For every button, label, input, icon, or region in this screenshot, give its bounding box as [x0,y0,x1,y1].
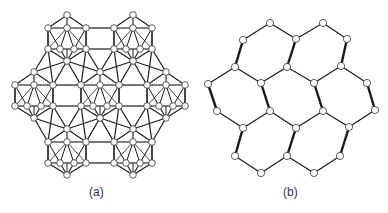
atom-node [163,82,170,89]
atom-node [97,115,104,122]
atom-node [292,35,299,42]
atom-node [71,46,78,53]
atom-node [130,172,137,179]
bond [270,111,296,128]
atom-node [149,139,156,146]
bond [287,67,314,83]
atom-node [345,123,352,130]
atom-node [78,103,85,110]
atom-node [83,160,90,167]
bond [314,156,340,173]
atom-node [130,58,137,65]
bond [243,111,270,128]
panel-b-honeycomb-network [204,19,378,176]
atom-node [182,82,189,89]
bond [208,67,235,84]
bond [261,156,287,173]
bond [341,39,347,66]
bond [349,110,375,127]
atom-node [204,80,211,87]
bond [323,111,349,127]
atom-node [310,79,317,86]
atom-node [12,82,19,89]
atom-node [111,25,118,32]
atom-node [50,82,57,89]
bond [235,156,261,173]
atom-node [97,69,104,76]
atom-node [116,82,123,89]
bond [243,23,270,40]
figure-canvas [0,0,388,213]
atom-node [266,19,273,26]
bond [314,66,341,83]
atom-node [130,139,137,146]
atom-node [266,107,273,114]
atom-node [64,139,71,146]
atom-node [50,103,57,110]
atom-node [45,139,52,146]
atom-node [116,103,123,110]
atom-node [239,124,246,131]
bond [235,67,261,83]
atom-node [64,126,71,133]
bond [340,127,349,156]
atom-node [319,107,326,114]
atom-node [130,12,137,19]
atom-node [12,103,19,110]
atom-node [337,62,344,69]
atom-node [336,152,343,159]
atom-node [64,172,71,179]
bond [261,83,270,111]
atom-node [343,35,350,42]
atom-node [38,103,45,110]
bond [323,23,347,39]
bond [287,39,296,67]
atom-node [97,82,104,89]
bond [208,84,217,111]
atom-node [83,46,90,53]
atom-node [283,152,290,159]
atom-node [45,160,52,167]
atom-node [57,46,64,53]
atom-node [163,115,170,122]
atom-node [257,169,264,176]
atom-node [213,107,220,114]
atom-node [31,69,38,76]
atom-node [90,103,97,110]
atom-node [130,25,137,32]
atom-node [83,25,90,32]
bond [341,66,367,83]
atom-node [24,103,31,110]
bond [235,128,243,156]
bond [367,83,375,110]
atom-node [130,126,137,133]
atom-node [144,103,151,110]
atom-node [371,106,378,113]
bond [235,40,243,67]
atom-node [64,58,71,65]
atom-node [78,82,85,89]
bond [287,128,296,156]
atom-node [231,152,238,159]
atom-node [57,160,64,167]
panel-b-label: (b) [283,185,298,199]
atom-node [149,46,156,53]
atom-node [144,82,151,89]
atom-node [149,160,156,167]
panel-a-icosahedra-network [12,12,189,179]
atom-node [231,63,238,70]
atom-node [123,160,130,167]
atom-node [363,79,370,86]
atom-node [239,36,246,43]
atom-node [71,160,78,167]
bond [314,83,323,111]
atom-node [149,25,156,32]
atom-node [64,25,71,32]
atom-node [319,19,326,26]
atom-node [137,160,144,167]
atom-node [104,103,111,110]
atom-node [310,169,317,176]
atom-node [45,25,52,32]
atom-node [64,12,71,19]
bond [261,67,287,83]
